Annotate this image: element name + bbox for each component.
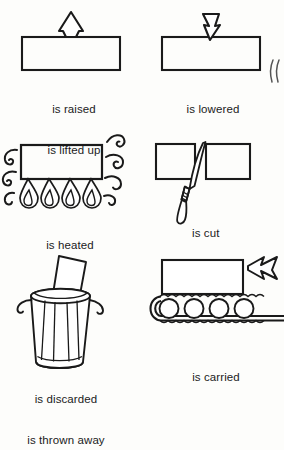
panel-is-heated: is heated <box>0 128 148 240</box>
stray-parenthesis-mark <box>266 58 284 84</box>
caption-line: is lowered <box>148 103 278 117</box>
caption-is-discarded: is discarded is thrown away <box>0 366 132 450</box>
caption-line: is thrown away <box>0 434 132 448</box>
panel-is-lowered: is lowered <box>148 0 284 120</box>
panel-is-discarded: is discarded is thrown away <box>0 248 148 402</box>
caption-line: is carried <box>148 371 284 385</box>
caption-is-carried: is carried <box>148 344 284 412</box>
caption-line: is discarded <box>0 393 132 407</box>
panel-is-raised: is raised is lifted up <box>0 0 148 120</box>
caption-line: is raised <box>0 103 148 117</box>
panel-is-cut: is cut <box>148 128 284 240</box>
panel-is-carried: is carried <box>148 248 284 402</box>
caption-line: is cut <box>192 227 272 241</box>
